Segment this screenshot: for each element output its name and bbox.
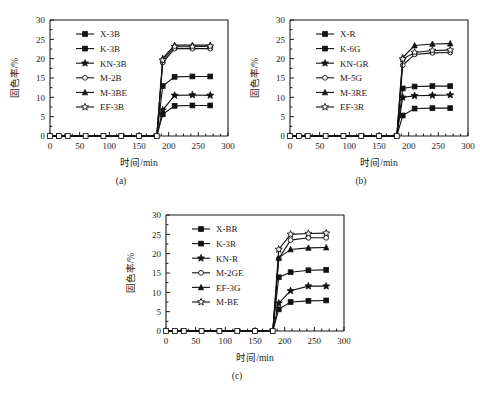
data-point	[208, 103, 213, 108]
series-m-2ge	[166, 235, 329, 331]
x-tick-label: 100	[103, 141, 117, 151]
x-axis-title: 时间/min	[120, 157, 158, 168]
chart-a-svg: 051015202530050100150200250300时间/min固色率/…	[6, 4, 236, 179]
legend-label-m-3be: M-3BE	[100, 88, 128, 98]
chart-c-svg: 051015202530050100150200250300时间/min固色率/…	[122, 199, 352, 374]
x-tick-label: 300	[337, 336, 351, 346]
y-tick-label: 20	[152, 249, 162, 259]
y-tick-label: 30	[276, 15, 286, 25]
y-axis-title: 固色率/%	[9, 58, 20, 99]
legend-label-x-r: X-R	[340, 29, 356, 39]
data-point	[207, 92, 214, 99]
series-k-6g	[290, 106, 453, 136]
x-tick-label: 200	[162, 141, 176, 151]
series-k-3b	[50, 103, 213, 136]
zero-marker	[199, 329, 204, 334]
zero-marker	[305, 134, 310, 139]
data-point	[411, 92, 418, 99]
x-tick-label: 100	[343, 141, 357, 151]
legend-label-ef-3b: EF-3B	[100, 102, 124, 112]
legend-marker-ef-3r	[321, 103, 328, 110]
series-path	[290, 95, 450, 136]
legend-marker-m-2ge	[199, 270, 204, 275]
legend-marker-x-br	[199, 227, 204, 232]
y-tick-label: 25	[152, 230, 162, 240]
series-k-3r	[166, 298, 329, 331]
y-tick-label: 10	[276, 93, 286, 103]
series-m-3be	[50, 42, 213, 136]
y-tick-label: 0	[41, 131, 46, 141]
series-group	[48, 42, 214, 138]
series-path	[50, 49, 210, 136]
data-point	[323, 229, 330, 236]
series-m-3re	[290, 41, 453, 136]
data-point	[305, 230, 312, 237]
data-point	[172, 103, 177, 108]
series-path	[166, 286, 326, 331]
y-tick-label: 10	[152, 288, 162, 298]
x-tick-label: 0	[164, 336, 169, 346]
series-path	[50, 45, 210, 136]
series-x-br	[166, 268, 329, 331]
data-point	[305, 282, 312, 289]
panel-c-caption: (c)	[122, 371, 352, 381]
legend-label-x-br: X-BR	[216, 224, 238, 234]
zero-marker	[235, 329, 240, 334]
panel-b-caption: (b)	[246, 176, 476, 186]
axes: 051015202530050100150200250300	[276, 15, 475, 151]
x-tick-label: 200	[402, 141, 416, 151]
y-tick-label: 0	[281, 131, 286, 141]
y-tick-label: 30	[152, 210, 162, 220]
zero-marker	[164, 329, 169, 334]
series-path	[50, 76, 210, 136]
data-point	[429, 92, 436, 99]
legend-marker-m-5g	[323, 75, 328, 80]
legend-marker-m-2b	[83, 75, 88, 80]
x-tick-label: 50	[191, 336, 201, 346]
legend-marker-x-3b	[83, 32, 88, 37]
axes: 051015202530050100150200250300	[152, 210, 351, 346]
data-point	[400, 113, 405, 118]
data-point	[412, 84, 417, 89]
data-point	[208, 74, 213, 79]
chart-b-svg: 051015202530050100150200250300时间/min固色率/…	[246, 4, 476, 179]
series-path	[50, 95, 210, 136]
series-m-2b	[50, 46, 213, 136]
zero-marker	[341, 134, 346, 139]
axes: 051015202530050100150200250300	[36, 15, 235, 151]
zero-marker	[359, 134, 364, 139]
series-path	[166, 233, 326, 331]
series-path	[290, 50, 450, 136]
y-tick-label: 5	[157, 307, 162, 317]
chart-panel-c: 051015202530050100150200250300时间/min固色率/…	[122, 199, 352, 374]
legend-marker-k-6g	[323, 46, 328, 51]
data-point	[412, 106, 417, 111]
data-point	[306, 268, 311, 273]
series-ef-3b	[50, 43, 214, 136]
y-tick-label: 15	[36, 73, 46, 83]
legend-label-k-6g: K-6G	[340, 44, 361, 54]
series-m-be	[166, 229, 330, 331]
data-point	[287, 231, 294, 238]
figure-container: 051015202530050100150200250300时间/min固色率/…	[0, 0, 480, 405]
data-point	[430, 106, 435, 111]
legend-marker-k-3b	[83, 46, 88, 51]
y-axis-title: 固色率/%	[125, 253, 136, 294]
series-kn-3b	[50, 91, 214, 136]
y-tick-label: 5	[281, 112, 286, 122]
y-tick-label: 15	[276, 73, 286, 83]
legend-label-k-3b: K-3B	[100, 44, 120, 54]
series-path	[166, 238, 326, 331]
x-tick-label: 150	[248, 336, 262, 346]
y-tick-label: 30	[36, 15, 46, 25]
x-tick-label: 200	[278, 336, 292, 346]
zero-marker	[101, 134, 106, 139]
y-tick-label: 20	[36, 54, 46, 64]
series-ef-3r	[290, 46, 454, 136]
data-point	[189, 91, 196, 98]
series-path	[166, 300, 326, 331]
x-tick-label: 150	[132, 141, 146, 151]
series-path	[50, 46, 210, 136]
x-axis-title: 时间/min	[360, 157, 398, 168]
y-tick-label: 0	[157, 326, 162, 336]
